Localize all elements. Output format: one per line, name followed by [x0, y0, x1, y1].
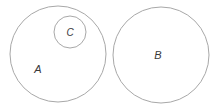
diagram-canvas: A C B — [0, 0, 221, 112]
set-label-a: A — [33, 63, 41, 75]
set-label-b: B — [154, 49, 161, 61]
euler-diagram: A C B — [0, 0, 221, 112]
set-circle-a — [10, 6, 106, 102]
set-label-c: C — [66, 27, 74, 38]
